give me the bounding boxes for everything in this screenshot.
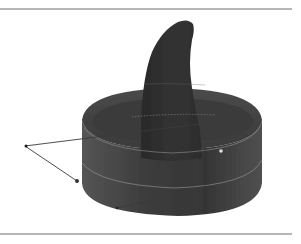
wire-base-point bbox=[116, 207, 119, 210]
wire-lower bbox=[25, 146, 77, 181]
figure bbox=[0, 0, 301, 244]
wire-lower-point bbox=[75, 179, 79, 183]
figure-canvas bbox=[0, 0, 301, 244]
rim-highlight-spot bbox=[219, 149, 223, 153]
wire-apex-point bbox=[25, 145, 28, 148]
